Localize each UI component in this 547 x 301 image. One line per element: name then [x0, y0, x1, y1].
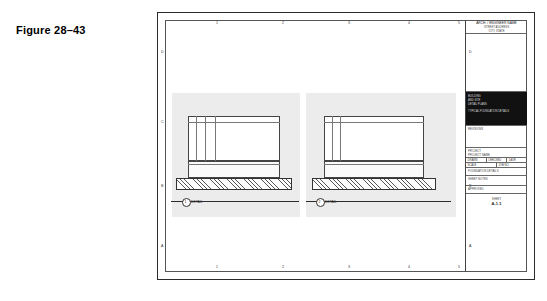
project-value: PROJECT NAME	[468, 153, 525, 157]
right-wall-course-line	[324, 122, 424, 123]
drawing-area: 1 DETAIL 2 DETAIL	[166, 21, 472, 273]
logo-line-5: TYPICAL FOUNDATION DETAILS	[468, 110, 525, 114]
notes-label: SHEET NOTES	[468, 177, 525, 181]
zone-label-left-b: B	[161, 185, 163, 189]
firm-city: CITY, STATE	[468, 29, 525, 33]
title-block-approved: APPROVED	[466, 186, 527, 194]
scale-label: SCALE	[466, 163, 497, 167]
left-detail-tag-number: 1	[185, 200, 187, 204]
job-label: JOB NO.	[497, 163, 527, 167]
left-wall-joint-1	[196, 116, 197, 161]
right-wall-block	[324, 116, 424, 161]
right-wall-joint-1	[332, 116, 333, 161]
left-wall-block	[188, 116, 280, 161]
title-block-revisions: REVISIONS	[466, 126, 527, 148]
title-block-notes: SHEET NOTES	[466, 176, 527, 186]
left-slab-top-line	[188, 164, 280, 165]
right-footing-hatch	[312, 178, 436, 190]
left-wall-course-line	[188, 122, 280, 123]
left-detail-bubble	[182, 198, 191, 207]
right-slab-top-line	[324, 164, 424, 165]
drawing-sheet: 1 2 3 4 5 1 2 3 4 5 D C B A D C B A	[157, 12, 535, 280]
drawn-label: DRAWN	[466, 158, 487, 162]
right-detail-bubble	[316, 198, 325, 207]
title-block-sheet-number-cell: SHEET A-1.1	[466, 194, 527, 208]
right-detail-caption: DETAIL	[325, 200, 337, 204]
right-detail-tag-number: 2	[319, 200, 321, 204]
left-wall-joint-2	[205, 116, 206, 161]
title-block-project: PROJECT PROJECT NAME	[466, 148, 527, 158]
approved-label: APPROVED	[468, 187, 525, 191]
title-block-blank-upper	[466, 34, 527, 92]
date-label: DATE	[507, 158, 527, 162]
title-block-drawing-title: FOUNDATION DETAILS	[466, 168, 527, 176]
checked-label: CHECKED	[487, 158, 508, 162]
title-block: ARCH. / ENGINEER NAME STREET ADDRESS CIT…	[465, 20, 527, 272]
left-detail-caption: DETAIL	[191, 200, 203, 204]
zone-label-left-a: A	[161, 245, 163, 249]
right-reinforcing-ticks	[326, 167, 422, 172]
right-wall-joint-2	[340, 116, 341, 161]
zone-label-left-c: C	[161, 121, 164, 125]
zone-label-left-d: D	[161, 51, 164, 55]
revisions-header: REVISIONS	[468, 127, 525, 131]
sheet-number: A-1.1	[468, 201, 525, 206]
drawing-title: FOUNDATION DETAILS	[468, 169, 525, 173]
title-block-logo-panel: BUILDING AND SITE DETAIL PLANS TYPICAL F…	[466, 92, 527, 126]
title-block-firm-header: ARCH. / ENGINEER NAME STREET ADDRESS CIT…	[466, 20, 527, 34]
figure-label: Figure 28–43	[16, 24, 86, 36]
left-wall-joint-3	[215, 116, 216, 161]
left-footing-hatch	[176, 178, 292, 190]
